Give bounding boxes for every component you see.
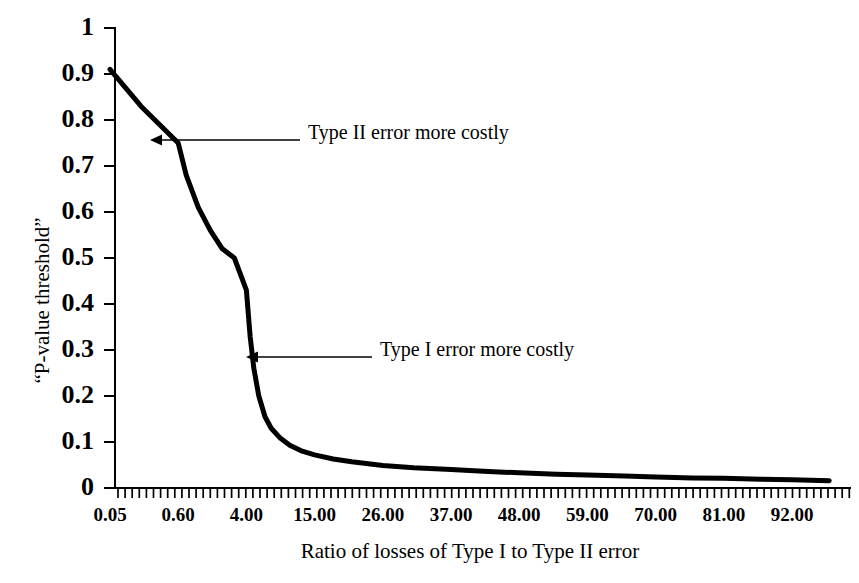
- y-tick-label: 0.1: [14, 428, 94, 454]
- chart-canvas: [0, 0, 859, 583]
- y-tick-label: 0.5: [14, 244, 94, 270]
- y-tick-label: 0.9: [14, 60, 94, 86]
- chart-figure: 00.10.20.30.40.50.60.70.80.91 0.050.604.…: [0, 0, 859, 583]
- x-axis-title: Ratio of losses of Type I to Type II err…: [190, 541, 750, 562]
- y-tick-label: 0.7: [14, 152, 94, 178]
- type-1-annotation-arrow: [246, 352, 372, 363]
- y-tick-label: 0.4: [14, 290, 94, 316]
- y-tick-label: 0: [14, 474, 94, 500]
- y-tick-label: 1: [14, 14, 94, 40]
- y-tick-label: 0.6: [14, 198, 94, 224]
- y-tick-label: 0.8: [14, 106, 94, 132]
- y-tick-label: 0.3: [14, 336, 94, 362]
- type-2-annotation-label: Type II error more costly: [308, 122, 509, 142]
- x-tick-label: 92.00: [752, 505, 832, 524]
- y-axis-title: “P-value threshold”: [32, 171, 53, 431]
- y-tick-label: 0.2: [14, 382, 94, 408]
- x-axis-ticks: [118, 488, 849, 498]
- type-1-annotation-label: Type I error more costly: [380, 339, 574, 359]
